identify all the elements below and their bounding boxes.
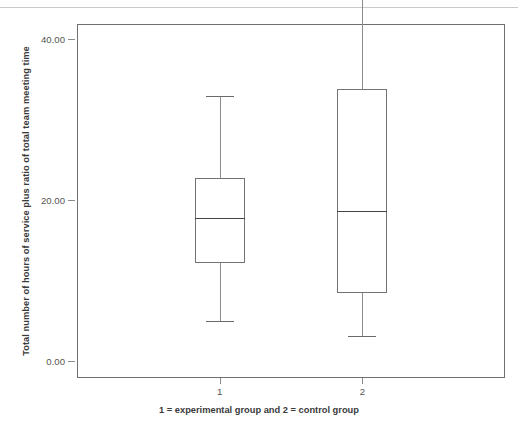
x-axis-tick-mark-1 [220, 378, 221, 384]
box-plot-figure: Total number of hours of service plus ra… [0, 0, 518, 437]
lower-whisker-cap [206, 321, 234, 322]
box-iqr [337, 89, 387, 293]
x-axis-tick-label-1: 1 [200, 385, 240, 398]
y-axis-tick-0: 0.00 [11, 355, 75, 369]
y-axis-tick-label: 20.00 [41, 194, 65, 208]
median-line [337, 211, 387, 212]
y-axis-tick-mark [68, 361, 75, 362]
y-axis-tick-mark [68, 39, 75, 40]
lower-whisker-line [362, 293, 363, 336]
upper-whisker-cap [206, 96, 234, 97]
x-axis-label: 1 = experimental group and 2 = control g… [0, 405, 518, 415]
x-axis-tick-mark-2 [362, 378, 363, 384]
lower-whisker-line [220, 263, 221, 321]
y-axis-tick-label: 0.00 [46, 355, 65, 369]
y-axis-tick-mark [68, 200, 75, 201]
median-line [195, 218, 245, 219]
box-iqr [195, 178, 245, 262]
top-divider-rule [0, 7, 518, 8]
plot-area-frame [77, 24, 505, 378]
upper-whisker-line [362, 0, 363, 89]
lower-whisker-cap [348, 336, 376, 337]
y-axis-tick-label: 40.00 [41, 33, 65, 47]
upper-whisker-line [220, 96, 221, 179]
y-axis-tick-2: 40.00 [11, 33, 75, 47]
x-axis-tick-label-2: 2 [342, 385, 382, 398]
y-axis-tick-1: 20.00 [11, 194, 75, 208]
